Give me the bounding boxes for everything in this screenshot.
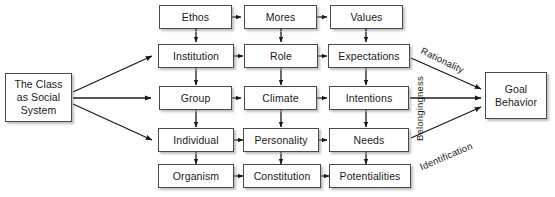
- node-mores[interactable]: Mores: [244, 5, 317, 29]
- node-label: Group: [179, 92, 213, 105]
- node-climate[interactable]: Climate: [244, 86, 317, 110]
- node-source-class-as-social-system[interactable]: The Class as Social System: [5, 73, 72, 122]
- node-individual[interactable]: Individual: [158, 128, 234, 152]
- node-label: Individual: [171, 134, 220, 147]
- source-line-3: System: [12, 104, 64, 117]
- node-organism[interactable]: Organism: [158, 164, 234, 188]
- node-intentions[interactable]: Intentions: [329, 86, 409, 110]
- target-line-1: Goal: [493, 83, 539, 96]
- node-label: Constitution: [252, 170, 313, 183]
- node-goal-behavior[interactable]: Goal Behavior: [485, 72, 547, 119]
- node-label: Ethos: [180, 11, 211, 24]
- node-label: Institution: [171, 50, 221, 63]
- node-label: Climate: [260, 92, 300, 105]
- node-constitution[interactable]: Constitution: [243, 164, 321, 188]
- node-expectations[interactable]: Expectations: [328, 44, 410, 68]
- edge-label-rationality: Rationality: [419, 45, 466, 75]
- diagram-canvas: The Class as Social System Ethos Mores V…: [0, 0, 555, 197]
- node-label: Intentions: [344, 92, 395, 105]
- node-group[interactable]: Group: [159, 86, 232, 110]
- target-line-2: Behavior: [493, 96, 539, 109]
- node-label: Potentialities: [338, 170, 403, 183]
- node-label: Role: [268, 50, 294, 63]
- node-potentialities[interactable]: Potentialities: [329, 164, 411, 188]
- node-label: Needs: [352, 134, 387, 147]
- node-personality[interactable]: Personality: [243, 128, 319, 152]
- node-ethos[interactable]: Ethos: [159, 5, 232, 29]
- source-line-2: as Social: [12, 91, 64, 104]
- node-needs[interactable]: Needs: [329, 128, 409, 152]
- source-line-1: The Class: [12, 78, 64, 91]
- node-label: Values: [349, 11, 385, 24]
- node-label: Personality: [252, 134, 309, 147]
- edge-label-identification: Identification: [418, 140, 474, 172]
- node-label: Mores: [264, 11, 298, 24]
- edge-label-belongingness: Belongingness: [414, 76, 425, 141]
- node-role[interactable]: Role: [244, 44, 318, 68]
- node-values[interactable]: Values: [330, 5, 403, 29]
- node-institution[interactable]: Institution: [158, 44, 234, 68]
- node-label: Expectations: [336, 50, 401, 63]
- node-label: Organism: [171, 170, 221, 183]
